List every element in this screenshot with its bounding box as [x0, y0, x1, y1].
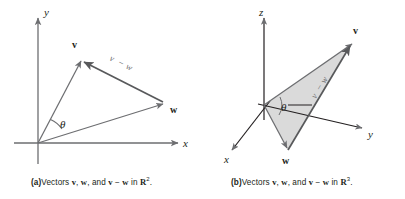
caption-a-minus: −: [113, 178, 123, 187]
y-axis-label: y: [367, 128, 373, 140]
vector-w-label: w: [170, 104, 178, 115]
vector-v-minus-w-label: v − w: [108, 53, 134, 73]
caption-b-period: .: [350, 178, 352, 187]
vector-v-minus-w-arrow: [84, 62, 163, 102]
panel-a-graphic: y x v w v − w: [14, 6, 188, 164]
v-minus-w-label-w: w: [124, 61, 134, 73]
z-axis-label: z: [258, 6, 264, 18]
panel-b-x-axis: x: [223, 101, 270, 165]
vector-v-label: v: [72, 39, 77, 50]
caption-a-period: .: [150, 178, 152, 187]
vector-v-arrow: [38, 61, 81, 143]
caption-b-tag: (b): [231, 178, 242, 187]
panel-a-vector-w: w: [38, 104, 178, 143]
theta-label: θ: [281, 101, 287, 113]
caption-b-sep-2: , and: [288, 178, 309, 187]
v-minus-w-label-v: v: [108, 53, 116, 64]
caption-b-minus: −: [313, 178, 323, 187]
caption-panel-b: (b)Vectors v, w, and v − w in R3.: [231, 176, 353, 187]
caption-a-text-1: Vectors: [41, 178, 71, 187]
caption-a-tag: (a): [31, 178, 41, 187]
x-axis-label: x: [182, 137, 188, 149]
caption-a-sep-2: , and: [87, 178, 108, 187]
caption-b-text-1: Vectors: [242, 178, 272, 187]
panel-a-vector-v-minus-w: v − w: [84, 53, 163, 102]
vector-w-label: w: [282, 155, 290, 166]
v-minus-w-label-minus: −: [116, 57, 126, 69]
vector-diagrams-svg: y x v w v − w: [0, 0, 405, 199]
panel-b-graphic: z y x v w: [223, 6, 373, 166]
y-axis-label: y: [43, 6, 49, 18]
theta-label: θ: [60, 118, 66, 130]
x-axis-label: x: [223, 153, 229, 165]
x-axis-line: [232, 101, 270, 150]
vector-v-label: v: [353, 25, 358, 36]
panel-b-z-axis: z: [258, 6, 264, 120]
panel-a-theta: θ: [51, 118, 67, 130]
caption-b-in: in: [329, 178, 340, 187]
caption-a-in: in: [129, 178, 140, 187]
caption-panel-a: (a)Vectors v, w, and v − w in R2.: [31, 176, 152, 187]
figure-root: y x v w v − w: [0, 0, 405, 199]
